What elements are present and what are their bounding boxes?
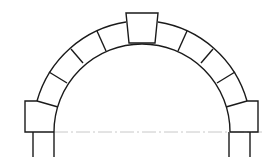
inner-arc	[54, 44, 230, 132]
joint	[49, 72, 67, 83]
springer-left	[25, 101, 54, 132]
joint	[226, 101, 247, 107]
joint	[37, 101, 58, 107]
joint	[217, 72, 235, 83]
springer-right	[230, 101, 258, 132]
joint	[71, 49, 83, 63]
keystone	[126, 13, 158, 43]
joint	[97, 31, 106, 51]
joint	[178, 31, 187, 51]
arch-diagram	[0, 0, 273, 161]
arch-drawing	[0, 0, 273, 161]
joint	[201, 49, 213, 63]
